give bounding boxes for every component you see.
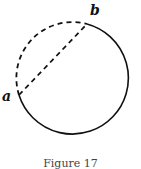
figure: a b Figure 17 xyxy=(0,0,141,169)
point-label-b: b xyxy=(90,2,100,18)
figure-caption: Figure 17 xyxy=(0,157,141,169)
dashed-arc xyxy=(16,22,87,95)
dashed-chord xyxy=(19,24,87,95)
circle-diagram xyxy=(0,0,141,169)
point-label-a: a xyxy=(2,88,11,104)
